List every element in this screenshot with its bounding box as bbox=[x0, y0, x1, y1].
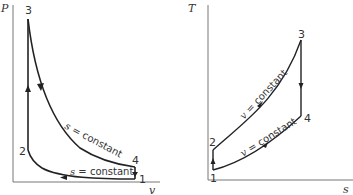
ts-isochore-cooling-label: v = constant bbox=[238, 115, 298, 158]
ts-point-2: 2 bbox=[209, 136, 216, 149]
pv-x-axis-label: v bbox=[149, 184, 156, 195]
ts-point-1: 1 bbox=[210, 172, 217, 185]
pv-process-3-4 bbox=[28, 19, 135, 167]
ts-point-4: 4 bbox=[304, 112, 311, 125]
ts-arrow-1-2-icon bbox=[211, 158, 216, 164]
ts-point-3: 3 bbox=[298, 28, 305, 41]
ts-diagram: T s 3 4 2 1 v = constant v = constant bbox=[188, 2, 353, 195]
otto-cycle-diagrams: P v 3 2 4 1 s = constant s = constant T … bbox=[0, 0, 353, 195]
ts-x-axis-label: s bbox=[343, 183, 349, 195]
pv-y-axis-label: P bbox=[0, 2, 9, 15]
pv-point-1: 1 bbox=[139, 173, 146, 186]
pv-isentrope-compression-label: s = constant bbox=[70, 166, 133, 177]
ts-arrow-3-4-icon bbox=[299, 83, 304, 89]
ts-y-axis-label: T bbox=[188, 2, 197, 15]
pv-point-2: 2 bbox=[19, 145, 26, 158]
pv-point-3: 3 bbox=[25, 4, 32, 17]
pv-arrow-1-2-icon bbox=[60, 175, 67, 180]
pv-diagram: P v 3 2 4 1 s = constant s = constant bbox=[0, 2, 160, 195]
pv-arrow-2-3-icon bbox=[25, 85, 31, 92]
ts-isochore-heating-label: v = constant bbox=[237, 67, 289, 121]
